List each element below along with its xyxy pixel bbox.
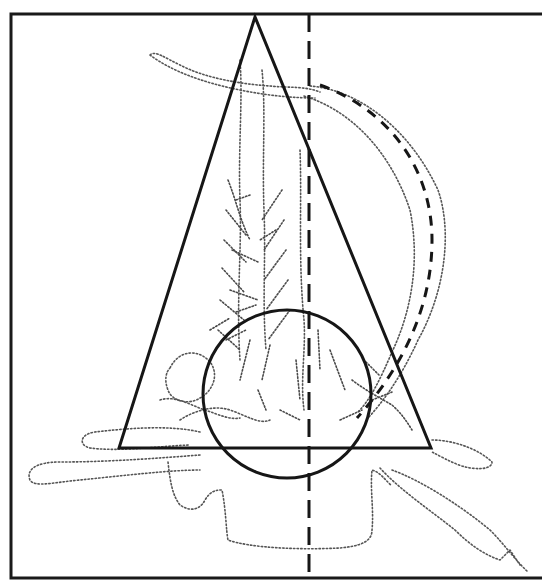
plant-outline-drawing [29,53,528,572]
dashed-arc-curve [320,85,432,418]
composition-circle [203,310,371,478]
composition-diagram [0,0,542,587]
